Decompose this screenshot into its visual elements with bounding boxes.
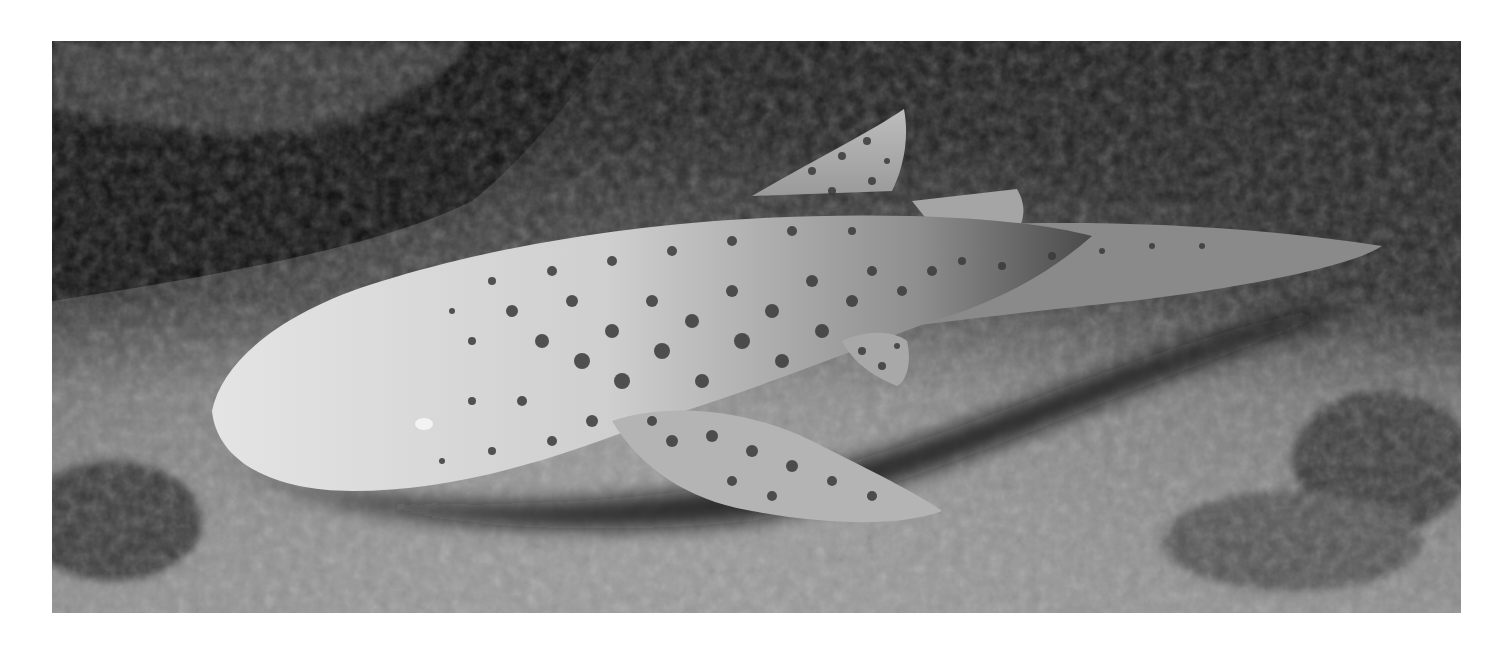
photo-canvas [52, 41, 1461, 613]
shark-photo [52, 41, 1461, 613]
